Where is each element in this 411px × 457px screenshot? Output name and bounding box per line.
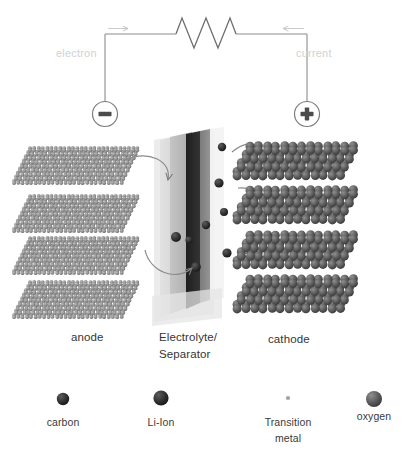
legend-icons bbox=[0, 0, 411, 457]
legend-label-oxygen: oxygen bbox=[334, 410, 411, 422]
battery-schematic-figure: electron current anode Electrolyte/ Sepa… bbox=[0, 0, 411, 457]
oxygen-sphere-icon bbox=[366, 391, 382, 407]
legend-label-carbon: carbon bbox=[23, 416, 103, 428]
li-ion-sphere-icon bbox=[153, 390, 168, 405]
legend-label-transition-metal-line2: metal bbox=[248, 432, 328, 444]
legend-label-li-ion: Li-Ion bbox=[121, 416, 201, 428]
transition-metal-sphere-icon bbox=[286, 396, 290, 400]
legend-label-transition-metal-line1: Transition bbox=[248, 416, 328, 428]
carbon-sphere-icon bbox=[57, 393, 69, 405]
